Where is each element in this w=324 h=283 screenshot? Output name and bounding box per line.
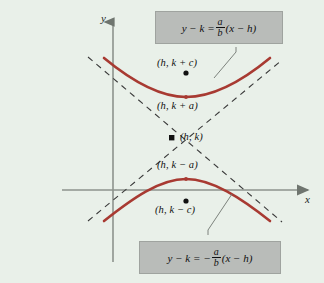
label-lower-focus: (h, k − c) bbox=[155, 204, 195, 215]
y-axis-label: y bbox=[101, 12, 106, 24]
hyperbola-figure: y x (h, k + c) (h, k + a) (h, k) (h, k −… bbox=[0, 0, 324, 283]
equation-top-rhs: (x − h) bbox=[226, 22, 257, 34]
dot-lower-vertex bbox=[184, 177, 188, 181]
leader-line-top bbox=[214, 47, 236, 78]
equation-box-positive-asymptote: y − k = a b (x − h) bbox=[155, 11, 283, 44]
equation-bottom-denominator: b bbox=[212, 257, 221, 268]
leader-line-bottom bbox=[208, 194, 232, 235]
label-upper-focus: (h, k + c) bbox=[157, 57, 197, 68]
dot-lower-focus bbox=[183, 198, 188, 203]
equation-top-fraction: a b bbox=[216, 17, 225, 38]
equation-bottom-rhs: (x − h) bbox=[222, 252, 253, 264]
dot-upper-vertex bbox=[184, 95, 188, 99]
label-lower-vertex: (h, k − a) bbox=[157, 159, 198, 170]
equation-top-lhs: y − k = bbox=[182, 22, 215, 34]
equation-bottom-numerator: a bbox=[212, 247, 221, 257]
equation-bottom-lhs: y − k = bbox=[168, 252, 201, 264]
equation-bottom-sign: − bbox=[203, 252, 210, 264]
equation-bottom-fraction: a b bbox=[212, 247, 221, 268]
equation-box-negative-asymptote: y − k = − a b (x − h) bbox=[139, 241, 281, 274]
x-axis-label: x bbox=[305, 193, 310, 205]
dot-center bbox=[169, 135, 174, 140]
equation-top-numerator: a bbox=[216, 17, 225, 27]
label-center: (h, k) bbox=[180, 131, 203, 142]
equation-top-denominator: b bbox=[216, 27, 225, 38]
label-upper-vertex: (h, k + a) bbox=[157, 100, 198, 111]
dot-upper-focus bbox=[183, 70, 188, 75]
